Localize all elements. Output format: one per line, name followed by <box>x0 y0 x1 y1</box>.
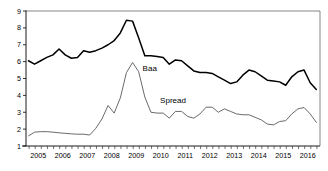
line-chart: 123456789 200520062007200820092010201120… <box>0 0 328 171</box>
x-tick-label: 2014 <box>251 151 267 160</box>
y-tick-label: 9 <box>17 7 21 16</box>
y-tick-label: 2 <box>17 125 21 134</box>
x-axis-ticks: 2005200620072008200920102011201220132014… <box>29 146 317 160</box>
x-tick-label: 2006 <box>55 151 71 160</box>
y-tick-label: 6 <box>17 57 21 66</box>
y-tick-label: 4 <box>17 91 21 100</box>
y-tick-label: 3 <box>17 108 21 117</box>
x-tick-label: 2011 <box>178 151 193 160</box>
y-tick-label: 8 <box>17 23 21 32</box>
y-tick-label: 7 <box>17 40 21 49</box>
x-tick-label: 2015 <box>275 151 291 160</box>
x-tick-label: 2012 <box>202 151 218 160</box>
x-tick-label: 2008 <box>104 151 120 160</box>
x-tick-label: 2007 <box>79 151 95 160</box>
y-tick-label: 5 <box>17 74 21 83</box>
x-tick-label: 2016 <box>300 151 316 160</box>
series-annotations: BaaSpread <box>143 64 186 106</box>
y-tick-label: 1 <box>17 142 21 151</box>
x-tick-label: 2013 <box>226 151 242 160</box>
series-label-spread: Spread <box>160 96 186 105</box>
x-tick-label: 2009 <box>128 151 144 160</box>
data-series-group <box>28 20 316 136</box>
plot-frame <box>22 11 320 147</box>
y-axis-ticks: 123456789 <box>17 7 26 151</box>
x-tick-label: 2005 <box>30 151 46 160</box>
x-tick-label: 2010 <box>153 151 169 160</box>
chart-container: 123456789 200520062007200820092010201120… <box>0 0 328 171</box>
series-label-baa: Baa <box>143 64 158 73</box>
series-line-baa <box>28 20 316 89</box>
